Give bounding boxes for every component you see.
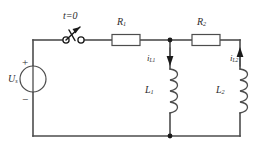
resistor-r1-symbol — [112, 35, 140, 46]
resistor-r2-label: R2 — [197, 17, 206, 27]
switch-terminal-right[interactable] — [78, 37, 84, 43]
voltage-source-minus-sign: − — [22, 94, 28, 105]
inductor-l1-label: L1 — [145, 85, 154, 95]
circuit-schematic-canvas — [0, 0, 260, 150]
inductor-l1-symbol — [170, 69, 178, 113]
junction-dot-top — [168, 38, 173, 43]
resistor-r1-label: R1 — [117, 17, 126, 27]
resistor-r2-symbol — [192, 35, 220, 46]
current-il2-label: iL2 — [230, 54, 238, 64]
junction-dot-bottom — [168, 134, 173, 139]
voltage-source-plus-sign: + — [22, 57, 28, 68]
current-arrow-il1-head — [167, 56, 174, 66]
current-il1-label: iL1 — [147, 54, 155, 64]
voltage-source-label: Us — [8, 74, 18, 84]
circuit-diagram: t=0 R1 R2 Us + − iL1 iL2 L1 L2 — [0, 0, 260, 150]
inductor-l2-symbol — [240, 69, 248, 113]
switch-label: t=0 — [63, 11, 78, 21]
inductor-l2-label: L2 — [216, 85, 225, 95]
